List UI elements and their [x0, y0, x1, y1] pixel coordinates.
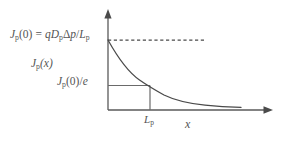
- jp0e-arg: (0): [66, 75, 79, 87]
- x-axis-label: x: [185, 118, 190, 130]
- jp0-eq-arg: (0): [19, 28, 32, 40]
- figure-container: Jp(0)=qDpΔp/Lp Jp(x) Jp(0)/e Lp x: [0, 0, 287, 141]
- jp0-eq-length-sub: p: [86, 33, 90, 42]
- decay-curve: [108, 40, 241, 107]
- jp0-eq-diffusion-symbol: D: [51, 28, 59, 40]
- y-axis-arrowhead: [104, 9, 111, 19]
- jp0-over-e-label: Jp(0)/e: [57, 76, 88, 89]
- jp0-eq-equals: =: [32, 28, 45, 40]
- y-axis: [104, 9, 111, 110]
- jp0e-euler: e: [83, 75, 88, 87]
- jpx-arg: (x): [40, 57, 53, 69]
- x-axis-arrowhead: [264, 106, 274, 114]
- jp0-equation-label: Jp(0)=qDpΔp/Lp: [10, 29, 90, 42]
- lp-axis-tick-label: Lp: [144, 114, 154, 127]
- x-axis: [108, 106, 273, 114]
- lp-sub: p: [150, 118, 154, 127]
- jp-of-x-label: Jp(x): [31, 58, 53, 71]
